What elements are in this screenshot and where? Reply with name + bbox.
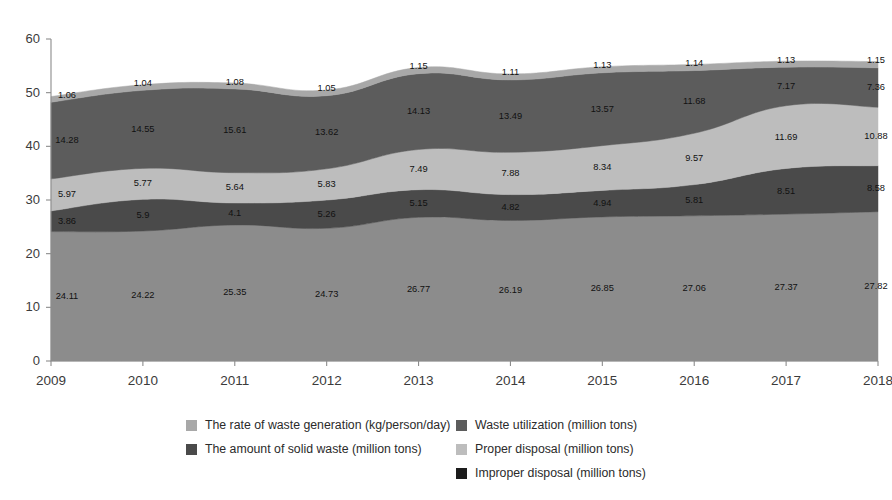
- y-tick-labels: 0102030405060: [26, 31, 40, 368]
- data-value-label: 9.57: [685, 153, 703, 163]
- data-value-label: 7.36: [867, 82, 885, 92]
- legend-item-label: Proper disposal (million tons): [475, 442, 634, 456]
- x-tick-label: 2014: [495, 373, 526, 388]
- data-value-label: 4.82: [501, 202, 519, 212]
- data-value-label: 26.77: [407, 284, 430, 294]
- y-tick-label: 60: [26, 31, 40, 46]
- data-value-label: 24.22: [131, 290, 154, 300]
- legend-item-label: The rate of waste generation (kg/person/…: [205, 418, 450, 432]
- legend-swatch-waste-utilization: [456, 420, 467, 431]
- x-tick-label: 2015: [587, 373, 617, 388]
- y-tick-label: 50: [26, 85, 40, 100]
- data-value-label: 5.9: [136, 210, 149, 220]
- legend-swatch-proper-disposal: [456, 444, 467, 455]
- data-value-label: 8.34: [593, 162, 611, 172]
- data-value-label: 27.06: [683, 283, 706, 293]
- data-value-label: 15.61: [223, 125, 246, 135]
- y-tick-label: 0: [33, 353, 40, 368]
- legend-item[interactable]: Proper disposal (million tons): [456, 438, 646, 460]
- data-value-label: 26.19: [499, 285, 522, 295]
- data-value-label: 7.49: [410, 164, 428, 174]
- x-tick-label: 2011: [220, 373, 249, 388]
- x-tick-label: 2017: [771, 373, 801, 388]
- data-value-label: 5.81: [685, 195, 703, 205]
- data-value-label: 1.05: [318, 83, 336, 93]
- data-value-label: 14.28: [55, 135, 78, 145]
- data-value-label: 27.37: [774, 282, 797, 292]
- data-value-label: 8.58: [867, 183, 885, 193]
- data-value-label: 13.49: [499, 111, 522, 121]
- legend-column-left: The rate of waste generation (kg/person/…: [186, 414, 450, 462]
- data-value-label: 11.68: [683, 96, 706, 106]
- data-value-label: 13.62: [315, 127, 338, 137]
- y-tick-label: 10: [26, 299, 40, 314]
- data-value-label: 7.88: [501, 168, 519, 178]
- data-value-label: 1.13: [777, 55, 795, 65]
- data-value-label: 1.14: [685, 58, 703, 68]
- chart-svg: 0102030405060 20092010201120122013201420…: [0, 0, 892, 412]
- data-value-label: 7.17: [777, 81, 795, 91]
- data-value-label: 5.15: [410, 198, 428, 208]
- x-tick-label: 2009: [36, 373, 66, 388]
- legend-swatch-waste-generation-rate: [186, 420, 197, 431]
- data-value-label: 1.15: [867, 55, 885, 65]
- x-tick-labels: 2009201020112012201320142015201620172018: [36, 373, 892, 388]
- y-tick-label: 40: [26, 138, 40, 153]
- data-value-label: 13.57: [591, 104, 614, 114]
- legend-item[interactable]: The amount of solid waste (million tons): [186, 438, 450, 460]
- data-value-label: 1.04: [134, 78, 152, 88]
- data-value-label: 24.73: [315, 289, 338, 299]
- area-band-1: [51, 212, 878, 361]
- data-value-label: 25.35: [223, 287, 246, 297]
- legend-item-label: Waste utilization (million tons): [475, 418, 637, 432]
- legend-item-label: The amount of solid waste (million tons): [205, 442, 422, 456]
- x-tick-label: 2018: [863, 373, 892, 388]
- legend-item-label: Improper disposal (million tons): [475, 466, 646, 480]
- data-value-label: 14.13: [407, 106, 430, 116]
- x-tick-label: 2012: [312, 373, 342, 388]
- chart-legend: The rate of waste generation (kg/person/…: [0, 414, 892, 500]
- data-value-label: 5.26: [318, 209, 336, 219]
- data-value-label: 4.94: [593, 198, 611, 208]
- data-value-label: 1.15: [410, 61, 428, 71]
- data-value-label: 10.88: [864, 131, 887, 141]
- data-value-label: 5.64: [226, 182, 244, 192]
- data-value-label: 11.69: [775, 132, 798, 142]
- legend-item[interactable]: Waste utilization (million tons): [456, 414, 646, 436]
- data-value-label: 3.86: [58, 216, 76, 226]
- plot-area: 0102030405060 20092010201120122013201420…: [0, 0, 892, 412]
- data-value-label: 26.85: [591, 283, 614, 293]
- data-value-label: 1.13: [593, 60, 611, 70]
- data-value-label: 5.77: [134, 178, 152, 188]
- data-value-label: 5.83: [318, 179, 336, 189]
- legend-swatch-solid-waste-amount: [186, 444, 197, 455]
- legend-item[interactable]: The rate of waste generation (kg/person/…: [186, 414, 450, 436]
- data-value-label: 1.06: [58, 90, 76, 100]
- data-value-label: 1.08: [226, 77, 244, 87]
- data-value-label: 27.82: [864, 281, 887, 291]
- x-tick-label: 2010: [128, 373, 158, 388]
- data-value-label: 14.55: [131, 124, 154, 134]
- legend-swatch-improper-disposal: [456, 468, 467, 479]
- y-tick-label: 30: [26, 192, 40, 207]
- data-value-label: 5.97: [58, 189, 76, 199]
- x-tick-label: 2016: [679, 373, 709, 388]
- x-tick-label: 2013: [404, 373, 434, 388]
- data-value-label: 4.1: [228, 208, 241, 218]
- data-value-label: 8.51: [777, 186, 795, 196]
- data-value-label: 1.11: [502, 67, 519, 77]
- stacked-area-chart: 0102030405060 20092010201120122013201420…: [0, 0, 892, 500]
- legend-item[interactable]: Improper disposal (million tons): [456, 462, 646, 484]
- y-tick-label: 20: [26, 246, 40, 261]
- area-bands-layer: [51, 61, 878, 361]
- legend-column-right: Waste utilization (million tons)Proper d…: [456, 414, 646, 486]
- data-value-label: 24.11: [56, 291, 79, 301]
